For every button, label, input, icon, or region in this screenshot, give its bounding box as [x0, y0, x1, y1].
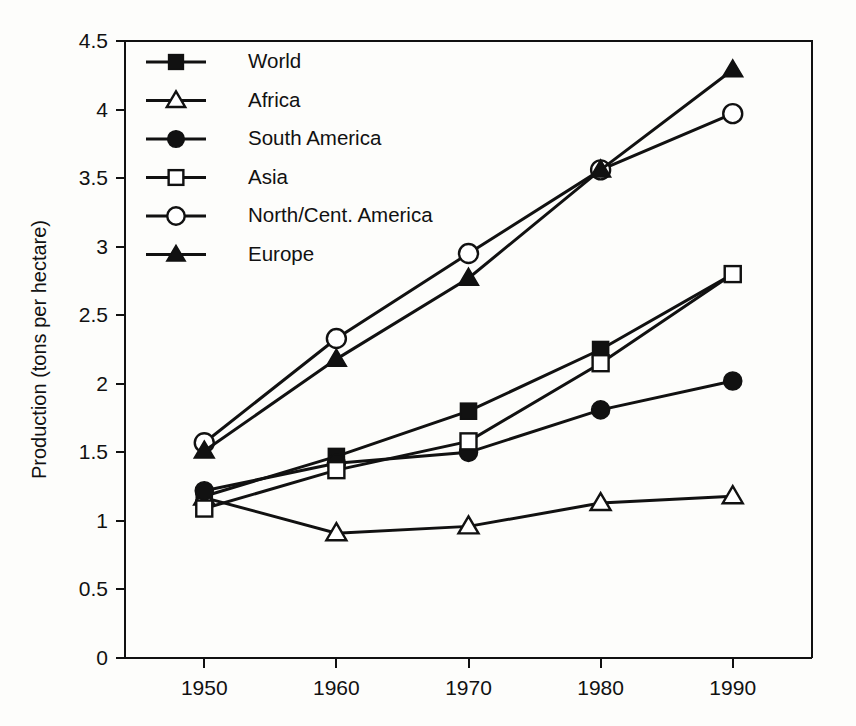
marker-filled-circle — [592, 401, 610, 419]
y-tick-label: 4 — [96, 98, 108, 121]
y-tick-label: 1 — [96, 509, 108, 532]
y-tick-label: 2 — [96, 372, 108, 395]
series-line — [204, 274, 732, 496]
marker-open-circle — [723, 104, 742, 123]
legend-item-europe: Europe — [146, 242, 314, 265]
legend-item-label: South America — [248, 126, 382, 149]
legend-item-label: North/Cent. America — [248, 203, 433, 226]
axis-titles: Production (tons per hectare) — [28, 220, 50, 479]
marker-open-square — [461, 433, 477, 449]
marker-open-circle — [459, 244, 478, 263]
y-tick-label: 0.5 — [79, 577, 108, 600]
chart-legend: WorldAfricaSouth AmericaAsiaNorth/Cent. … — [146, 49, 433, 265]
marker-open-square — [328, 462, 344, 478]
x-tick-label: 1950 — [181, 676, 228, 699]
marker-filled-circle — [724, 372, 742, 390]
legend-item-north-cent-america: North/Cent. America — [146, 203, 433, 226]
marker-open-circle — [327, 329, 346, 348]
axes: 00.511.522.533.544.519501960197019801990 — [79, 29, 812, 699]
x-tick-label: 1970 — [445, 676, 492, 699]
marker-open-square — [196, 501, 212, 517]
x-tick-label: 1990 — [709, 676, 756, 699]
y-tick-label: 4.5 — [79, 29, 108, 52]
legend-item-asia: Asia — [146, 165, 288, 188]
line-chart: 00.511.522.533.544.519501960197019801990… — [0, 0, 856, 726]
y-tick-label: 0 — [96, 646, 108, 669]
marker-filled-square — [169, 55, 184, 70]
marker-open-triangle — [723, 486, 743, 503]
x-tick-label: 1980 — [577, 676, 624, 699]
legend-item-label: Africa — [248, 88, 301, 111]
series-africa — [194, 486, 742, 540]
marker-filled-triangle — [326, 349, 346, 366]
marker-filled-circle — [168, 131, 185, 148]
legend-item-label: Asia — [248, 165, 288, 188]
marker-filled-triangle — [723, 60, 743, 77]
axis-frame-top-right — [125, 41, 812, 658]
marker-open-circle — [167, 207, 184, 224]
legend-item-label: Europe — [248, 242, 314, 265]
marker-filled-circle — [195, 482, 213, 500]
series-asia — [196, 266, 740, 516]
legend-item-label: World — [248, 49, 301, 72]
x-tick-label: 1960 — [313, 676, 360, 699]
y-axis-title: Production (tons per hectare) — [28, 220, 50, 479]
marker-open-square — [725, 266, 741, 282]
legend-item-south-america: South America — [146, 126, 382, 149]
marker-filled-square — [461, 403, 477, 419]
y-tick-label: 1.5 — [79, 440, 108, 463]
y-tick-label: 3.5 — [79, 166, 108, 189]
marker-open-square — [169, 170, 184, 185]
legend-item-africa: Africa — [146, 88, 301, 111]
y-tick-label: 3 — [96, 235, 108, 258]
figure-container: 00.511.522.533.544.519501960197019801990… — [0, 0, 856, 726]
y-tick-label: 2.5 — [79, 303, 108, 326]
marker-open-square — [593, 355, 609, 371]
axis-frame-left-bottom — [125, 41, 812, 658]
legend-item-world: World — [146, 49, 301, 72]
